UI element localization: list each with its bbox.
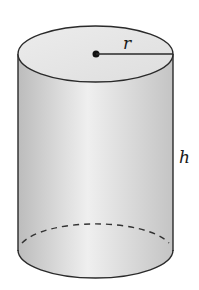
cylinder-diagram: r h xyxy=(0,0,199,290)
cylinder-body xyxy=(18,54,173,278)
height-label: h xyxy=(179,147,190,167)
radius-label: r xyxy=(123,33,132,53)
